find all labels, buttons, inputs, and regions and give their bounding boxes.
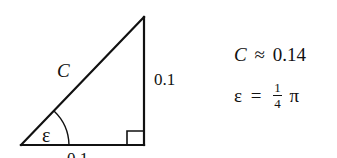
vertical-side-label: 0.1 [154, 71, 175, 88]
angle-arc [54, 111, 69, 145]
fraction: 1 4 [273, 81, 282, 110]
epsilon-symbol: ε [234, 85, 242, 106]
fraction-denominator: 4 [273, 96, 282, 110]
pi-symbol: π [289, 85, 299, 106]
c-value: 0.14 [273, 44, 306, 65]
equals-sign: = [251, 85, 262, 106]
angle-label: ε [42, 125, 50, 145]
bottom-side-label: 0.1 [67, 150, 88, 158]
equation-c: C ≈ 0.14 [234, 45, 306, 64]
approx-sign: ≈ [254, 44, 264, 65]
hypotenuse-label: C [57, 61, 70, 80]
equation-epsilon: ε = 1 4 π [234, 83, 299, 112]
hypotenuse [21, 17, 144, 145]
fraction-numerator: 1 [273, 81, 282, 96]
c-symbol: C [234, 44, 247, 65]
right-angle-marker [127, 131, 144, 145]
